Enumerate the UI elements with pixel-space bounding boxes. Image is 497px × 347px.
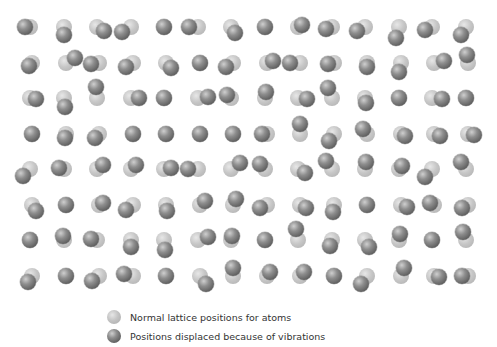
- displaced-atom: [114, 24, 130, 40]
- displaced-atom: [454, 268, 470, 284]
- displaced-atom: [84, 273, 100, 289]
- displaced-atom: [466, 127, 482, 143]
- legend-item-displaced: Positions displaced because of vibration…: [107, 328, 325, 344]
- displaced-atom: [163, 160, 179, 176]
- displaced-atom: [355, 121, 371, 137]
- displaced-atom: [28, 91, 44, 107]
- displaced-atom: [359, 59, 375, 75]
- displaced-atom: [453, 27, 469, 43]
- displaced-atom: [232, 155, 248, 171]
- displaced-atom: [158, 126, 174, 142]
- displaced-atom: [159, 203, 175, 219]
- displaced-atom: [192, 126, 208, 142]
- displaced-atom: [125, 126, 141, 142]
- legend-label-displaced: Positions displaced because of vibration…: [130, 331, 325, 342]
- displaced-atom: [298, 200, 314, 216]
- displaced-atom: [21, 58, 37, 74]
- displaced-atom: [96, 23, 112, 39]
- displaced-atom: [265, 53, 281, 69]
- displaced-atom: [397, 128, 413, 144]
- displaced-atom: [262, 264, 278, 280]
- displaced-atom: [358, 95, 374, 111]
- displaced-atom: [163, 60, 179, 76]
- displaced-atom: [58, 197, 74, 213]
- displaced-atom: [158, 268, 174, 284]
- displaced-atom: [55, 228, 71, 244]
- displaced-atom: [58, 268, 74, 284]
- displaced-atom: [434, 91, 450, 107]
- displaced-atom: [394, 158, 410, 174]
- displaced-atom: [87, 130, 103, 146]
- displaced-atom: [56, 27, 72, 43]
- displaced-atom: [436, 53, 452, 69]
- displaced-atom: [399, 199, 415, 215]
- displaced-atom: [156, 19, 172, 35]
- displaced-atom: [299, 91, 315, 107]
- displaced-atom: [391, 64, 407, 80]
- displaced-atom: [257, 19, 273, 35]
- displaced-atom: [417, 22, 433, 38]
- displaced-atom: [391, 90, 407, 106]
- displaced-atom: [131, 90, 147, 106]
- displaced-atom: [15, 168, 31, 184]
- displaced-atom: [192, 55, 208, 71]
- displaced-atom: [227, 25, 243, 41]
- displaced-atom: [28, 203, 44, 219]
- displaced-atom: [51, 160, 67, 176]
- displaced-atom: [422, 195, 438, 211]
- displaced-atom: [458, 90, 474, 106]
- displaced-atom: [24, 126, 40, 142]
- displaced-atom: [431, 269, 447, 285]
- displaced-atom: [200, 229, 216, 245]
- displaced-atom: [424, 232, 440, 248]
- displaced-atom: [388, 30, 404, 46]
- displaced-atom: [20, 274, 36, 290]
- displaced-atom: [57, 130, 73, 146]
- displaced-atom: [326, 268, 342, 284]
- displaced-atom: [359, 197, 375, 213]
- displaced-atom: [157, 242, 173, 258]
- displaced-atom: [282, 55, 298, 71]
- displaced-atom: [228, 191, 244, 207]
- displaced-atom-icon: [107, 329, 121, 343]
- displaced-atom: [459, 47, 475, 63]
- displaced-atom: [297, 165, 313, 181]
- displaced-atom: [181, 19, 197, 35]
- displaced-atom: [156, 90, 172, 106]
- displaced-atom: [321, 133, 337, 149]
- displaced-atom: [417, 169, 433, 185]
- displaced-atom: [123, 239, 139, 255]
- displaced-atom: [67, 50, 83, 66]
- displaced-atom: [198, 276, 214, 292]
- displaced-atom: [294, 17, 310, 33]
- displaced-atom: [349, 23, 365, 39]
- displaced-atom: [200, 89, 216, 105]
- displaced-atom: [325, 204, 341, 220]
- displaced-atom: [118, 59, 134, 75]
- displaced-atom: [353, 276, 369, 292]
- normal-atom-icon: [107, 310, 121, 324]
- displaced-atom: [257, 232, 273, 248]
- displaced-atom: [432, 128, 448, 144]
- legend-item-normal: Normal lattice positions for atoms: [107, 309, 291, 325]
- displaced-atom: [322, 238, 338, 254]
- displaced-atom: [453, 154, 469, 170]
- displaced-atom: [83, 56, 99, 72]
- atom-lattice: [0, 0, 497, 300]
- displaced-atom: [118, 202, 134, 218]
- displaced-atom: [95, 195, 111, 211]
- displaced-atom: [180, 161, 196, 177]
- displaced-atom: [225, 126, 241, 142]
- displaced-atom: [128, 157, 144, 173]
- displaced-atom: [83, 231, 99, 247]
- displaced-atom: [252, 156, 268, 172]
- displaced-atom: [57, 99, 73, 115]
- legend-label-normal: Normal lattice positions for atoms: [130, 312, 291, 323]
- displaced-atom: [296, 264, 312, 280]
- displaced-atom: [454, 200, 470, 216]
- displaced-atom: [197, 193, 213, 209]
- displaced-atom: [22, 232, 38, 248]
- displaced-atom: [95, 157, 111, 173]
- displaced-atom: [396, 260, 412, 276]
- displaced-atom: [361, 239, 377, 255]
